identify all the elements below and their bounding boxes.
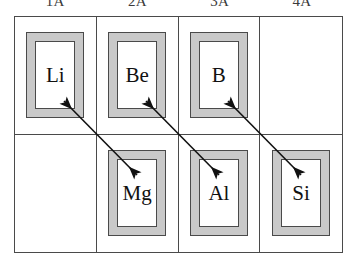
element-symbol-li: Li	[46, 65, 65, 86]
grid-cell-row1-1a[interactable]: Li	[15, 17, 97, 135]
diagonal-relationship-diagram: 1A 2A 3A 4A Li Be B	[0, 0, 357, 264]
element-inner-li: Li	[35, 41, 75, 109]
grid-cell-row1-3a[interactable]: B	[179, 17, 261, 135]
element-inner-al: Al	[199, 159, 239, 227]
column-header-3a: 3A	[179, 0, 261, 12]
column-header-1a: 1A	[14, 0, 96, 12]
grid-cell-row2-3a[interactable]: Al	[179, 135, 261, 253]
element-symbol-mg: Mg	[123, 183, 152, 204]
element-symbol-si: Si	[292, 183, 310, 204]
element-box-b[interactable]: B	[190, 32, 248, 118]
element-box-mg[interactable]: Mg	[108, 150, 166, 236]
column-header-4a: 4A	[261, 0, 343, 12]
column-header-2a: 2A	[96, 0, 178, 12]
grid-cell-row2-1a-empty[interactable]	[15, 135, 97, 253]
grid-cell-row1-4a-empty[interactable]	[260, 17, 342, 135]
periodic-table-grid: Li Be B Mg	[14, 16, 343, 253]
element-box-be[interactable]: Be	[108, 32, 166, 118]
element-inner-b: B	[199, 41, 239, 109]
element-inner-mg: Mg	[117, 159, 157, 227]
grid-cell-row2-2a[interactable]: Mg	[97, 135, 179, 253]
element-inner-si: Si	[281, 159, 321, 227]
element-symbol-b: B	[212, 65, 226, 86]
grid-cell-row1-2a[interactable]: Be	[97, 17, 179, 135]
element-box-li[interactable]: Li	[26, 32, 84, 118]
grid-cell-row2-4a[interactable]: Si	[260, 135, 342, 253]
column-header-row: 1A 2A 3A 4A	[14, 0, 343, 12]
element-symbol-al: Al	[208, 183, 229, 204]
element-box-al[interactable]: Al	[190, 150, 248, 236]
element-box-si[interactable]: Si	[272, 150, 330, 236]
element-inner-be: Be	[117, 41, 157, 109]
element-symbol-be: Be	[125, 65, 148, 86]
